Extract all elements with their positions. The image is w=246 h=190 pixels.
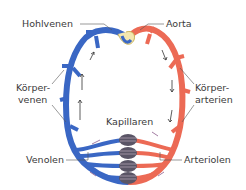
label-hohlvenen: Hohlvenen bbox=[22, 18, 73, 29]
arteries-group bbox=[128, 28, 190, 182]
label-koerperarterien-line2: arterien bbox=[195, 94, 233, 105]
label-koerpervenen-line1: Körper- bbox=[16, 82, 50, 93]
heart-junction bbox=[118, 31, 135, 44]
label-aorta: Aorta bbox=[166, 18, 192, 29]
label-kapillaren: Kapillaren bbox=[106, 116, 153, 127]
label-arteriolen: Arteriolen bbox=[184, 154, 231, 165]
label-koerpervenen-line2: venen bbox=[18, 94, 47, 105]
label-koerperarterien-line1: Körper- bbox=[195, 82, 229, 93]
circulation-diagram: Hohlvenen Aorta Körper- venen Körper- ar… bbox=[0, 0, 246, 190]
capillary-beds bbox=[119, 134, 137, 184]
label-venolen: Venolen bbox=[26, 154, 64, 165]
